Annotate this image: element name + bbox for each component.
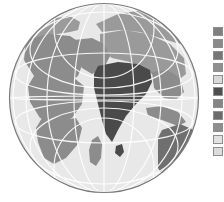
legend-swatch: [213, 51, 223, 60]
legend-item[interactable]: [213, 27, 224, 36]
legend-item[interactable]: [213, 87, 224, 96]
legend-item[interactable]: [213, 63, 224, 72]
legend-item[interactable]: [213, 75, 224, 84]
legend-swatch: [213, 135, 223, 144]
legend-item[interactable]: [213, 51, 224, 60]
legend-item[interactable]: [213, 99, 224, 108]
legend-swatch: [213, 75, 223, 84]
legend-item[interactable]: [213, 111, 224, 120]
globe-figure: [0, 0, 224, 202]
legend-swatch: [213, 39, 223, 48]
legend-item[interactable]: [213, 147, 224, 156]
map-legend[interactable]: [213, 27, 224, 156]
legend-swatch: [213, 123, 223, 132]
legend-swatch: [213, 99, 223, 108]
legend-swatch: [213, 147, 223, 156]
globe-svg: [0, 0, 208, 202]
legend-swatch: [213, 87, 223, 96]
legend-swatch: [213, 63, 223, 72]
legend-item[interactable]: [213, 123, 224, 132]
globe-map[interactable]: [0, 0, 208, 202]
legend-swatch: [213, 111, 223, 120]
legend-item[interactable]: [213, 39, 224, 48]
legend-swatch: [213, 27, 223, 36]
legend-item[interactable]: [213, 135, 224, 144]
